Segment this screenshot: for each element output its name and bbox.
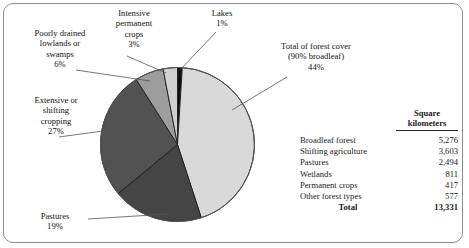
table-cell-category: Pastures bbox=[300, 157, 396, 168]
table-total-row: Total13,331 bbox=[300, 202, 458, 213]
callout-line: shifting bbox=[10, 105, 102, 115]
table-total-value: 13,331 bbox=[396, 202, 458, 213]
table-cell-category: Permanent crops bbox=[300, 180, 396, 191]
table-cell-value: 3,603 bbox=[396, 146, 458, 157]
table-header-line2: kilometers bbox=[408, 118, 447, 128]
callout-line: Total of forest cover bbox=[252, 41, 380, 51]
table-body: Broadleaf forest5,276Shifting agricultur… bbox=[300, 131, 458, 213]
callout-percent: 27% bbox=[10, 126, 102, 136]
callout-percent: 19% bbox=[20, 221, 90, 231]
callout-line: Lakes bbox=[190, 8, 254, 18]
callout-percent: 1% bbox=[190, 18, 254, 28]
figure-root: Poorly drained lowlands or swamps 6% Int… bbox=[0, 0, 469, 248]
table-cell-value: 2,494 bbox=[396, 157, 458, 168]
callout-line: (90% broadleaf) bbox=[252, 51, 380, 61]
callout-line: permanent bbox=[97, 18, 171, 28]
callout-line: crops bbox=[97, 29, 171, 39]
table-cell-category: Other forest types bbox=[300, 191, 396, 202]
callout-pastures: Pastures 19% bbox=[20, 211, 90, 232]
table-row: Shifting agriculture3,603 bbox=[300, 146, 458, 157]
pie-svg bbox=[99, 66, 256, 223]
callout-percent: 3% bbox=[97, 39, 171, 49]
callout-percent: 44% bbox=[252, 62, 380, 72]
table-row: Broadleaf forest5,276 bbox=[300, 135, 458, 146]
callout-line: Pastures bbox=[20, 211, 90, 221]
table-cell-value: 5,276 bbox=[396, 135, 458, 146]
table-head: Square kilometers bbox=[300, 108, 458, 131]
callout-line: swamps bbox=[6, 49, 114, 59]
table-header-blank bbox=[300, 108, 396, 131]
pie-chart bbox=[99, 66, 256, 223]
table-cell-value: 417 bbox=[396, 180, 458, 191]
table-cell-category: Wetlands bbox=[300, 169, 396, 180]
callout-line: Intensive bbox=[97, 8, 171, 18]
table-header-line1: Square bbox=[414, 108, 440, 118]
table-row: Wetlands811 bbox=[300, 169, 458, 180]
callout-line: Extensive or bbox=[10, 95, 102, 105]
square-kilometers-table: Square kilometers Broadleaf forest5,276S… bbox=[300, 108, 458, 213]
callout-total-forest-cover: Total of forest cover (90% broadleaf) 44… bbox=[252, 41, 380, 72]
table-row: Pastures2,494 bbox=[300, 157, 458, 168]
table-cell-category: Shifting agriculture bbox=[300, 146, 396, 157]
table-row: Permanent crops417 bbox=[300, 180, 458, 191]
table-cell-value: 811 bbox=[396, 169, 458, 180]
data-table: Square kilometers Broadleaf forest5,276S… bbox=[300, 108, 458, 213]
table-total-label: Total bbox=[300, 202, 396, 213]
table-row: Other forest types577 bbox=[300, 191, 458, 202]
table-cell-value: 577 bbox=[396, 191, 458, 202]
callout-percent: 6% bbox=[6, 59, 114, 69]
callout-extensive-shifting-cropping: Extensive or shifting cropping 27% bbox=[10, 95, 102, 137]
callout-line: cropping bbox=[10, 116, 102, 126]
callout-lakes: Lakes 1% bbox=[190, 8, 254, 29]
callout-intensive-permanent-crops: Intensive permanent crops 3% bbox=[97, 8, 171, 50]
table-header-square-kilometers: Square kilometers bbox=[396, 108, 458, 131]
table-cell-category: Broadleaf forest bbox=[300, 135, 396, 146]
table-header-row: Square kilometers bbox=[300, 108, 458, 131]
